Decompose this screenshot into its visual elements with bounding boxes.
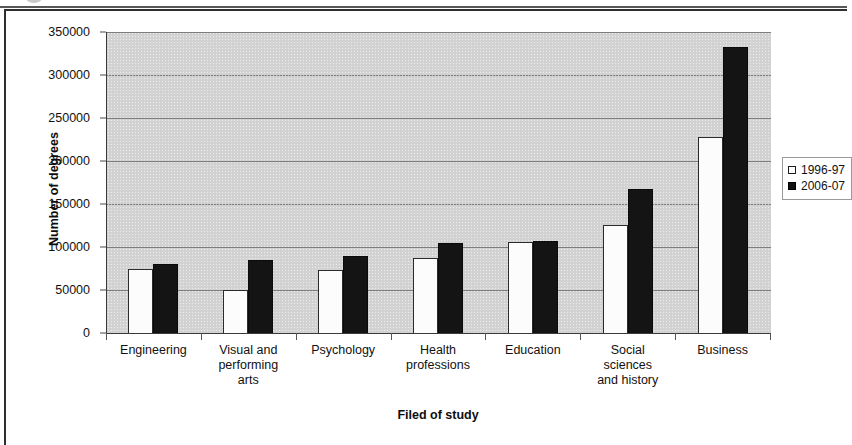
y-axis-tick-label: 300000 [48, 68, 90, 82]
x-axis-category-label: Socialsciencesand history [580, 343, 675, 388]
plot-area [106, 32, 771, 334]
gridline [107, 118, 771, 119]
gridline [107, 204, 771, 205]
x-axis-tick-mark [296, 333, 297, 340]
x-axis-category-label: Education [485, 343, 580, 388]
y-axis-tick-mark [100, 333, 106, 334]
legend-item: 1996-97 [788, 162, 845, 178]
y-axis-tick-mark [100, 75, 106, 76]
gridline [107, 247, 771, 248]
gridline [107, 75, 771, 76]
x-axis-ticks [106, 333, 770, 340]
x-axis-tick-mark [770, 333, 771, 340]
x-axis-tick-mark [391, 333, 392, 340]
hollow-square-icon [788, 166, 796, 174]
x-axis-category-label: Engineering [106, 343, 201, 388]
legend-item-label: 2006-07 [801, 178, 845, 194]
y-axis-tick-mark [100, 247, 106, 248]
y-axis-tick-mark [100, 118, 106, 119]
gridline [107, 32, 771, 33]
x-axis-tick-labels: EngineeringVisual andperformingartsPsych… [106, 343, 770, 388]
x-axis-category-label: Psychology [296, 343, 391, 388]
x-axis-category-label: Visual andperformingarts [201, 343, 296, 388]
y-axis-tick-label: 0 [83, 326, 90, 340]
y-axis-tick-mark [100, 204, 106, 205]
y-axis-tick-label: 50000 [55, 283, 90, 297]
filled-square-icon [788, 182, 796, 190]
y-axis-tick-label: 350000 [48, 25, 90, 39]
legend-item-label: 1996-97 [801, 162, 845, 178]
chart-legend: 1996-972006-07 [782, 157, 852, 200]
y-axis-tick-labels: 3500003000002500002000001500001000005000… [0, 32, 98, 333]
x-axis-tick-mark [675, 333, 676, 340]
y-axis-tick-mark [100, 290, 106, 291]
x-axis-tick-mark [580, 333, 581, 340]
y-axis-tick-label: 200000 [48, 154, 90, 168]
gridline [107, 290, 771, 291]
x-axis-category-label: Business [675, 343, 770, 388]
x-axis-category-label: Healthprofessions [391, 343, 486, 388]
x-axis-tick-mark [201, 333, 202, 340]
y-axis-tick-label: 150000 [48, 197, 90, 211]
y-axis-tick-label: 100000 [48, 240, 90, 254]
gridline [107, 161, 771, 162]
legend-item: 2006-07 [788, 178, 845, 194]
y-axis-tick-mark [100, 32, 106, 33]
x-axis-tick-mark [106, 333, 107, 340]
y-axis-tick-mark [100, 161, 106, 162]
x-axis-tick-mark [485, 333, 486, 340]
x-axis-title: Filed of study [106, 408, 770, 422]
y-axis-tick-label: 250000 [48, 111, 90, 125]
